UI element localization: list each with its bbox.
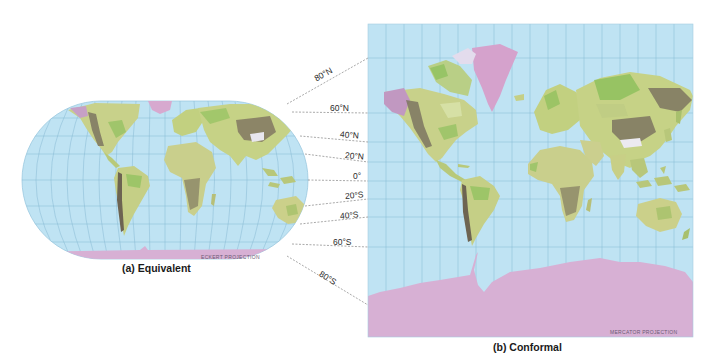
lat-label-40n: 40°N (340, 129, 360, 141)
mercator-map (368, 24, 693, 337)
eckert-map (20, 101, 310, 259)
lat-label-equator: 0° (353, 171, 361, 181)
equivalent-caption: (a) Equivalent (122, 262, 191, 274)
lat-label-20n: 20°N (345, 150, 365, 162)
lat-label-20s: 20°S (345, 189, 364, 201)
lat-label-40s: 40°S (340, 209, 359, 221)
map-projection-figure: 80°N 60°N 40°N 20°N 0° 20°S 40°S 60°S 80… (0, 0, 708, 358)
conformal-caption: (b) Conformal (493, 341, 562, 353)
lat-label-60s: 60°S (333, 237, 352, 247)
lat-label-60n: 60°N (330, 103, 349, 113)
mercator-projection-label: MERCATOR PROJECTION (610, 329, 677, 335)
eckert-projection-label: ECKERT PROJECTION (201, 254, 260, 260)
